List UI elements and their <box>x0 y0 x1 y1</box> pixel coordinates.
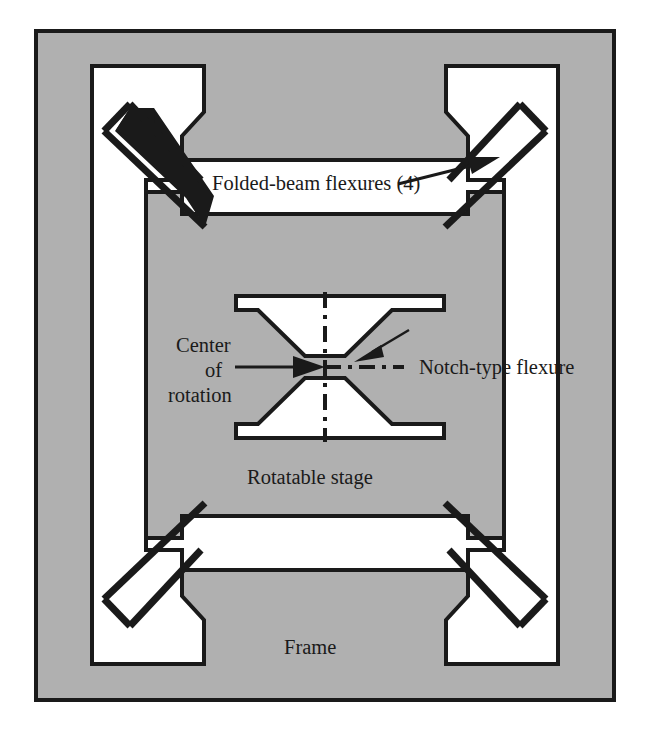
label-center-of-rotation-line3: rotation <box>168 384 232 406</box>
bottom-horizontal-slot <box>146 516 504 570</box>
flexure-stage-diagram: Folded-beam flexures (4) Notch-type flex… <box>0 0 649 731</box>
label-frame: Frame <box>284 636 336 658</box>
label-notch-type-flexure: Notch-type flexure <box>419 356 574 379</box>
figure-root: Folded-beam flexures (4) Notch-type flex… <box>0 0 649 731</box>
label-folded-beam-flexures: Folded-beam flexures (4) <box>212 172 420 195</box>
label-center-of-rotation-line2: of <box>205 359 222 381</box>
label-rotatable-stage: Rotatable stage <box>247 466 373 489</box>
label-center-of-rotation-line1: Center <box>176 334 231 356</box>
